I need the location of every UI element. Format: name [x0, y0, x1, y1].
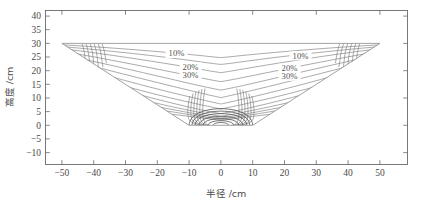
y-tick-label: 15: [32, 80, 42, 90]
contour-label-10pct-right: 10%: [293, 51, 309, 61]
domain-boundary: [62, 43, 380, 125]
y-tick-label: 0: [36, 121, 41, 131]
contour-line-30pct: [62, 67, 380, 109]
contour-line: [86, 93, 356, 120]
contour-line: [62, 72, 380, 114]
x-axis-tickmarks: [62, 11, 380, 165]
contour-field: [62, 43, 380, 125]
contour-line-throat: [236, 90, 245, 125]
x-tick-label: −30: [118, 168, 133, 178]
x-tick-label: −10: [182, 168, 197, 178]
contour-line-dome: [208, 121, 234, 126]
contour-labels: 10% 20% 30% 10% 20% 30%: [166, 48, 312, 81]
x-tick-label: −40: [86, 168, 101, 178]
x-tick-label: 50: [375, 168, 385, 178]
plot-svg: −50 −40 −30 −20 −10 0 10 20 30 40 50 40 …: [0, 0, 422, 207]
contour-line: [68, 78, 374, 116]
x-tick-label: 20: [280, 168, 290, 178]
x-tick-label: −20: [150, 168, 165, 178]
y-axis-title: 高度 /cm: [4, 67, 15, 108]
y-tick-label: 35: [32, 25, 42, 35]
contour-line-throat: [197, 90, 206, 125]
x-tick-label: 40: [343, 168, 353, 178]
contour-line-dome: [213, 123, 229, 126]
y-axis-tick-labels: 40 35 30 25 20 15 10 5 0 −5 −10: [26, 11, 41, 158]
y-axis-tickmarks: [46, 16, 408, 153]
x-tick-label: −50: [54, 168, 69, 178]
contour-label-30pct-left: 30%: [183, 70, 199, 80]
x-tick-label: 10: [248, 168, 258, 178]
y-tick-label: −10: [26, 148, 41, 158]
contour-label-10pct-left: 10%: [169, 48, 185, 58]
x-tick-label: 0: [219, 168, 224, 178]
contour-line-10pct: [62, 51, 380, 81]
contour-line: [62, 47, 380, 65]
y-tick-label: 40: [32, 11, 42, 21]
plot-frame: [46, 11, 408, 165]
contour-label-30pct-right: 30%: [282, 71, 298, 81]
contour-line-wall: [335, 43, 340, 63]
x-axis-title: 半径 /cm: [206, 188, 247, 199]
y-tick-label: 5: [36, 107, 41, 117]
contour-figure: −50 −40 −30 −20 −10 0 10 20 30 40 50 40 …: [0, 0, 422, 207]
x-axis-tick-labels: −50 −40 −30 −20 −10 0 10 20 30 40 50: [54, 168, 384, 178]
y-tick-label: −5: [31, 134, 41, 144]
contour-line-wall: [102, 43, 107, 63]
contour-line-wall: [347, 43, 352, 73]
y-tick-label: 20: [32, 66, 42, 76]
y-tick-label: 25: [32, 52, 42, 62]
contour-line: [98, 101, 344, 121]
x-tick-label: 30: [312, 168, 322, 178]
y-tick-label: 30: [32, 39, 42, 49]
y-tick-label: 10: [32, 93, 42, 103]
contour-line: [62, 49, 380, 73]
contour-line-wall: [90, 43, 95, 73]
